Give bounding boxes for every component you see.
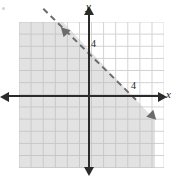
scan-speck	[2, 7, 5, 10]
y-axis-arrow-down-icon	[84, 167, 94, 176]
y-axis-label: y	[86, 1, 91, 12]
x-axis-label: x	[166, 89, 171, 100]
x-axis-arrow-left-icon	[0, 92, 9, 102]
y-axis	[88, 12, 90, 174]
graph-figure: y x 4 4	[0, 0, 176, 182]
y-axis-tick-label-4: 4	[91, 39, 96, 49]
x-axis	[6, 95, 164, 97]
x-axis-tick-label-4: 4	[131, 81, 136, 91]
